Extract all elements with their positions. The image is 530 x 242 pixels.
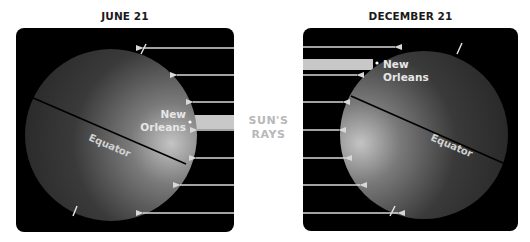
city-label-line2: Orleans xyxy=(140,121,186,133)
city-label-line1: New xyxy=(383,58,409,70)
suns-rays-line2: RAYS xyxy=(234,128,303,142)
city-label-line2: Orleans xyxy=(383,71,429,83)
city-label-line1: New xyxy=(160,108,186,120)
solstice-diagram: JUNE 21 DECEMBER 21 EquatorNewOrleansEqu… xyxy=(0,0,530,242)
new-orleans-dot xyxy=(375,61,378,64)
new-orleans-dot xyxy=(188,120,191,123)
june-panel: EquatorNewOrleans xyxy=(16,28,234,232)
direct-sun-ray-band xyxy=(303,59,373,70)
suns-rays-label: SUN'S RAYS xyxy=(234,114,303,142)
earth-globe xyxy=(25,49,197,221)
suns-rays-line1: SUN'S xyxy=(234,114,303,128)
december-panel: EquatorNewOrleans xyxy=(303,28,518,231)
